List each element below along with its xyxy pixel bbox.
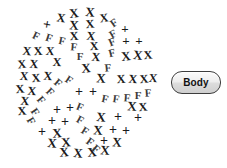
f-glyph: F [31, 30, 42, 43]
plus-glyph: + [38, 125, 46, 139]
x-glyph: X [96, 71, 106, 85]
x-glyph: X [128, 73, 138, 86]
f-glyph: F [144, 87, 151, 98]
f-glyph: F [44, 32, 54, 45]
plus-glyph: + [134, 111, 142, 125]
f-glyph: F [112, 93, 120, 105]
x-glyph: X [143, 49, 153, 62]
x-glyph: X [52, 56, 61, 68]
x-glyph: X [47, 136, 57, 150]
x-glyph: X [73, 146, 83, 160]
x-glyph: X [116, 73, 125, 86]
body-button-label: Body [183, 77, 208, 88]
x-glyph: X [91, 51, 101, 64]
f-glyph: F [63, 74, 75, 87]
plus-glyph: + [122, 34, 129, 47]
plus-glyph: + [75, 85, 83, 99]
f-glyph: F [58, 35, 67, 47]
plus-glyph: + [89, 85, 97, 99]
x-glyph: X [148, 72, 157, 85]
x-glyph: X [29, 58, 39, 71]
plus-glyph: + [66, 101, 74, 115]
f-glyph: F [101, 93, 110, 105]
plus-glyph: + [122, 124, 130, 138]
x-glyph: X [112, 135, 122, 149]
x-glyph: X [19, 70, 28, 83]
f-glyph: F [75, 101, 85, 114]
f-glyph: F [107, 47, 116, 59]
x-glyph: X [22, 45, 32, 58]
x-glyph: X [31, 72, 41, 85]
x-glyph: X [59, 145, 69, 159]
x-glyph: X [133, 48, 144, 62]
plus-glyph: + [61, 115, 69, 129]
x-glyph: X [33, 45, 42, 58]
x-glyph: X [56, 11, 66, 24]
x-glyph: X [43, 70, 53, 83]
f-glyph: F [35, 94, 48, 106]
body-button[interactable]: Body [171, 71, 221, 94]
x-glyph: X [121, 49, 132, 63]
plus-glyph: + [135, 34, 142, 47]
x-glyph: X [81, 61, 91, 75]
x-glyph: X [17, 105, 27, 118]
